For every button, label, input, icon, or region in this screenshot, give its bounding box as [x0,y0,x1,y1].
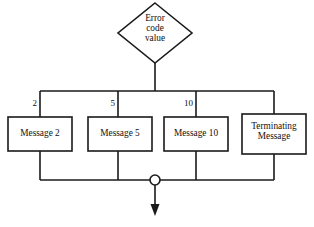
arrow-down-icon [151,204,160,216]
process-box-message-2[interactable] [8,117,72,151]
process-box-message-10[interactable] [164,117,228,151]
flowchart-svg [0,0,314,227]
process-box-message-5[interactable] [88,117,152,151]
process-box-terminating-message[interactable] [242,114,306,154]
merge-junction-circle[interactable] [150,175,160,185]
flowchart-canvas: Error code value 2 5 10 Message 2 Messag… [0,0,314,227]
decision-diamond[interactable] [118,3,192,63]
